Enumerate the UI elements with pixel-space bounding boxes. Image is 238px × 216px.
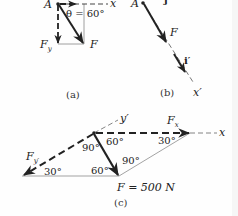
point-a-label: A xyxy=(130,0,139,10)
origin-point xyxy=(92,131,96,135)
caption-a: (a) xyxy=(66,89,80,100)
x-axis-label: x xyxy=(110,0,117,10)
panel-a: A x θ = 60° Fy F (a) xyxy=(39,0,117,100)
angle-top-right: 60° xyxy=(106,136,124,147)
angle-left-corner: 30° xyxy=(44,166,62,177)
angle-bottom-left-of-f: 60° xyxy=(91,165,109,176)
force-value-label: F = 500 N xyxy=(116,181,175,194)
panel-b: A j F i′ (b) x′ xyxy=(130,0,202,99)
caption-b: (b) xyxy=(160,87,174,98)
point-a xyxy=(56,2,60,6)
point-a-label: A xyxy=(43,0,52,11)
force-arrow xyxy=(144,4,166,42)
point-a xyxy=(141,1,145,5)
y-prime-axis-line xyxy=(94,120,118,133)
unit-vector-i-prime-label: i′ xyxy=(184,55,191,66)
angle-top-left: 90° xyxy=(82,142,100,153)
diagram-canvas: A x θ = 60° Fy F (a) A j F i′ (b) x′ xyxy=(0,0,238,216)
y-prime-axis-label: y′ xyxy=(119,112,129,125)
caption-c: (c) xyxy=(114,197,128,208)
panel-c: y′ x Fx Fy′ 60° 90° 30° 30° 60° 90° F = … xyxy=(22,112,226,208)
angle-label: θ = 60° xyxy=(66,8,104,19)
x-axis-label: x xyxy=(219,126,226,139)
fy-prime-label: Fy′ xyxy=(25,150,40,165)
x-prime-axis-label: x′ xyxy=(193,86,202,99)
angle-bottom-right-of-f: 90° xyxy=(122,155,140,166)
force-label: F xyxy=(169,26,178,39)
force-label: F xyxy=(89,38,98,51)
force-components-diagram: A x θ = 60° Fy F (a) A j F i′ (b) x′ xyxy=(0,0,238,216)
fy-label: Fy xyxy=(39,38,53,53)
fx-label: Fx xyxy=(166,114,179,129)
unit-vector-j-label: j xyxy=(163,0,168,5)
angle-right-corner: 30° xyxy=(158,135,176,146)
